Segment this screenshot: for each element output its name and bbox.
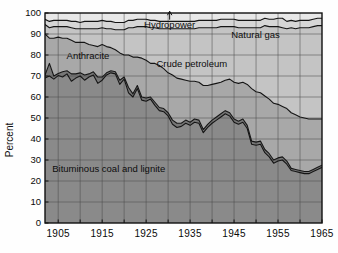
y-tick-label: 20	[30, 175, 41, 186]
x-tick-label: 1945	[222, 228, 246, 239]
chart-container: Percent 0102030405060708090100 190519151…	[0, 0, 338, 253]
y-tick-label: 40	[30, 133, 41, 144]
y-tick-label: 50	[30, 112, 41, 123]
x-tick-label: 1955	[266, 228, 290, 239]
y-tick-label: 0	[36, 217, 41, 228]
y-tick-label: 70	[30, 70, 41, 81]
y-tick-label: 80	[30, 49, 41, 60]
x-tick-label: 1915	[90, 228, 114, 239]
annotation-natural-gas: Natural gas	[231, 29, 280, 40]
y-tick-label: 10	[30, 196, 41, 207]
x-tick-label: 1935	[178, 228, 202, 239]
x-tick-label: 1905	[46, 228, 70, 239]
annotation-crude-petroleum: Crude petroleum	[156, 58, 227, 69]
area-series-group	[45, 18, 322, 223]
y-tick-label: 90	[30, 28, 41, 39]
y-tick-label: 30	[30, 154, 41, 165]
y-tick-label: 60	[30, 91, 41, 102]
stacked-area-chart: Percent 0102030405060708090100 190519151…	[0, 0, 338, 253]
annotation-hydropower: Hydropower	[144, 19, 195, 30]
plot-area	[45, 13, 322, 223]
y-tick-label: 100	[25, 7, 41, 18]
annotation-bituminous-coal: Bituminous coal and lignite	[52, 163, 165, 174]
y-axis-title: Percent	[4, 123, 15, 158]
annotation-anthracite: Anthracite	[67, 50, 110, 61]
x-tick-label: 1965	[310, 228, 334, 239]
x-tick-label: 1925	[134, 228, 158, 239]
